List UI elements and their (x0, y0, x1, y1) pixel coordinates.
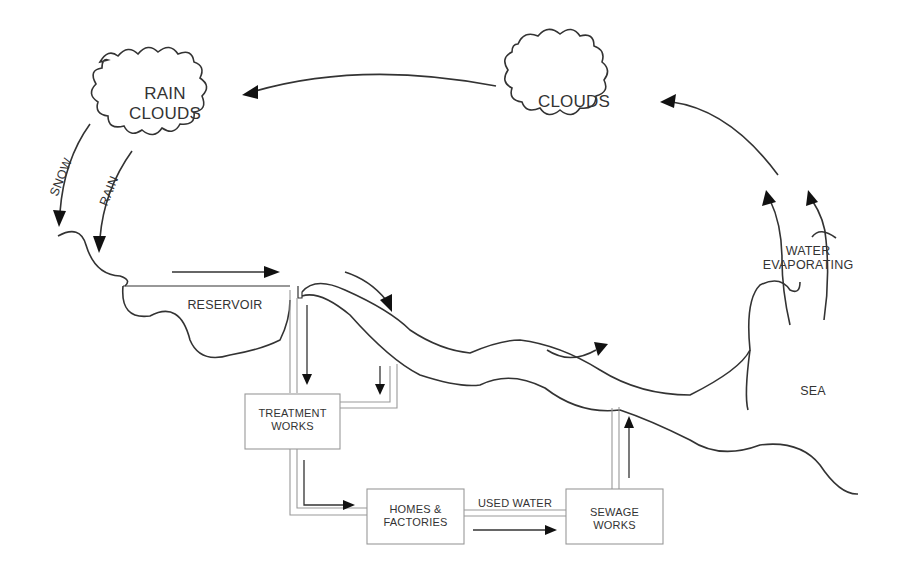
homes-factories-line1: HOMES & (367, 503, 464, 516)
water-evaporating-line1: WATER (748, 244, 868, 258)
used-water-label: USED WATER (464, 496, 566, 510)
homes-factories-line2: FACTORIES (367, 516, 464, 529)
treatment-works-line1: TREATMENT (245, 407, 340, 420)
rain-clouds-label: RAIN CLOUDS (120, 84, 210, 124)
treatment-works-label: TREATMENT WORKS (245, 407, 340, 433)
sewage-works-label: SEWAGE WORKS (566, 506, 663, 532)
homes-factories-label: HOMES & FACTORIES (367, 503, 464, 529)
treatment-works-line2: WORKS (245, 420, 340, 433)
water-evaporating-label: WATER EVAPORATING (748, 244, 868, 272)
clouds-label: CLOUDS (524, 92, 624, 112)
sewage-works-line1: SEWAGE (566, 506, 663, 519)
water-evaporating-line2: EVAPORATING (748, 258, 868, 272)
sewage-works-line2: WORKS (566, 519, 663, 532)
rain-clouds-line2: CLOUDS (120, 104, 210, 124)
sea-label: SEA (788, 384, 838, 398)
reservoir-label: RESERVOIR (170, 298, 280, 312)
rain-clouds-line1: RAIN (120, 84, 210, 104)
